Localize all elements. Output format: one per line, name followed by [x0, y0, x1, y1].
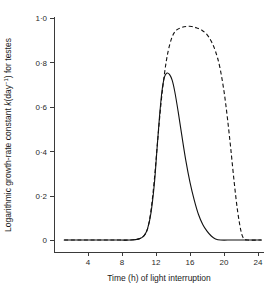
x-tick-label-8: 8: [120, 258, 125, 267]
x-axis-title: Time (h) of light interruption: [107, 273, 211, 283]
y-tick-label-0-6: 0·6: [35, 103, 47, 112]
x-tick-label-16: 16: [186, 258, 195, 267]
x-tick-label-20: 20: [220, 258, 229, 267]
x-tick-label-24: 24: [254, 258, 263, 267]
x-axis-tick-labels: 4 8 12 16 20 24: [86, 258, 263, 267]
y-tick-label-0-8: 0·8: [35, 59, 47, 68]
y-tick-label-0: 0: [43, 236, 48, 245]
y-axis-ticks: [50, 18, 54, 240]
chart-plot-area: 1·0 0·8 0·6 0·4 0·2 0 4 8 12: [0, 0, 266, 287]
y-tick-label-1-0: 1·0: [35, 14, 47, 23]
chart-figure: 1·0 0·8 0·6 0·4 0·2 0 4 8 12: [0, 0, 266, 287]
y-axis-title-units-open: (day: [3, 84, 13, 101]
x-axis-ticks: [88, 252, 258, 256]
y-tick-label-0-2: 0·2: [35, 192, 47, 201]
x-axis: 4 8 12 16 20 24: [54, 252, 264, 267]
y-axis-tick-labels: 1·0 0·8 0·6 0·4 0·2 0: [35, 14, 47, 245]
y-tick-label-0-4: 0·4: [35, 148, 47, 157]
data-series-group: [64, 26, 261, 240]
x-tick-label-4: 4: [86, 258, 91, 267]
y-axis-title: Logarithmic growth-rate constant k(day−1…: [3, 38, 13, 232]
y-axis: 1·0 0·8 0·6 0·4 0·2 0: [35, 14, 54, 252]
y-axis-title-units-close: ) for testes: [3, 38, 13, 78]
x-tick-label-12: 12: [152, 258, 161, 267]
y-axis-title-lead: Logarithmic growth-rate constant: [3, 106, 13, 232]
series-dashed-curve: [64, 26, 261, 240]
